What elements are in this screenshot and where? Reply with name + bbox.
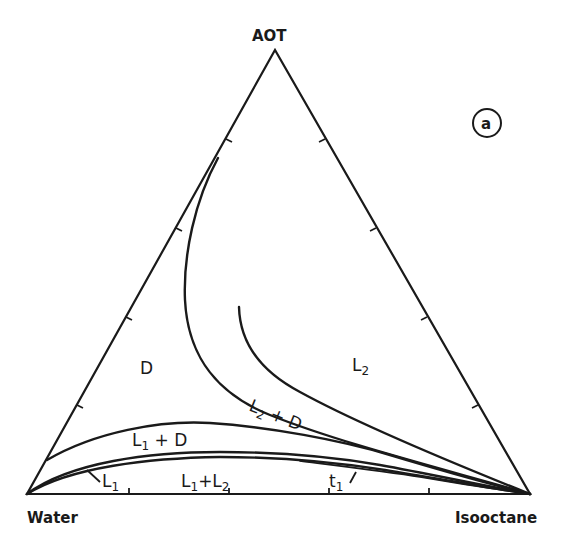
panel-label: a [481,115,491,133]
triangle-frame [27,50,530,494]
leader-l1 [87,470,100,482]
right-edge-ticks [319,139,478,408]
region-label-l1-plus-d: L1 + D [132,430,187,453]
leader-t1 [350,472,356,483]
ternary-diagram: AOT Water Isooctane a D L2 L2 + D L1 + D… [0,0,565,553]
region-label-l1: L1 [102,471,119,494]
vertex-label-isooctane: Isooctane [455,509,537,527]
region-label-l2: L2 [352,355,369,378]
region-label-t1: t1 [329,471,343,494]
region-label-l1-plus-l2: L1+L2 [181,471,229,494]
region-label-d: D [140,358,153,378]
vertex-label-aot: AOT [252,27,287,45]
vertex-label-water: Water [27,509,78,527]
boundary-d-l2d [185,158,530,494]
